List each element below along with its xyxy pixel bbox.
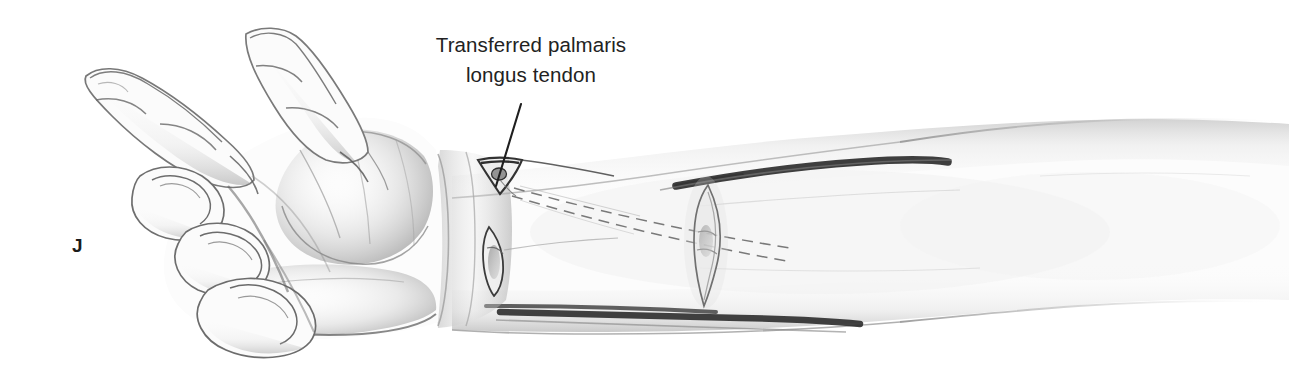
midforearm-incision-halo <box>684 176 728 308</box>
callout-label: Transferred palmaris longus tendon <box>410 30 652 89</box>
callout-label-line-1: Transferred palmaris <box>410 30 652 60</box>
surgical-illustration-figure: Transferred palmaris longus tendon J <box>0 0 1289 386</box>
second-wrist-incision-depth <box>488 245 500 279</box>
forearm <box>452 119 1289 334</box>
midforearm-incision <box>684 176 728 308</box>
forearm-proximal-tone <box>900 172 1280 280</box>
panel-letter: J <box>72 236 83 255</box>
callout-label-line-2: longus tendon <box>410 60 652 90</box>
